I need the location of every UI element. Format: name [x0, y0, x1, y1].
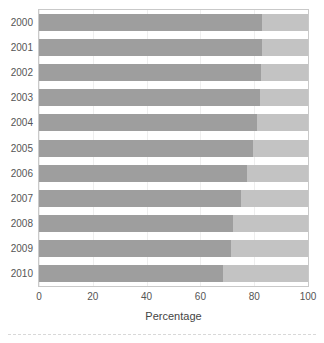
bar-row: [39, 64, 308, 81]
bar-segment-primary-2010: [39, 265, 223, 282]
y-axis-label-2008: 2008: [0, 218, 33, 229]
bar-row: [39, 265, 308, 282]
bar-segment-primary-2001: [39, 39, 262, 56]
bar-segment-secondary-2008: [233, 215, 308, 232]
bar-segment-primary-2003: [39, 89, 260, 106]
y-axis-label-2004: 2004: [0, 117, 33, 128]
y-axis-label-2003: 2003: [0, 92, 33, 103]
bar-segment-secondary-2009: [231, 240, 308, 257]
plot-area: [38, 9, 309, 287]
bar-row: [39, 114, 308, 131]
bar-segment-primary-2006: [39, 165, 247, 182]
bar-segment-secondary-2000: [262, 14, 308, 31]
bar-segment-primary-2007: [39, 190, 241, 207]
bar-segment-secondary-2002: [261, 64, 308, 81]
bar-row: [39, 39, 308, 56]
bar-segment-primary-2008: [39, 215, 233, 232]
bar-segment-secondary-2001: [262, 39, 308, 56]
bar-segment-primary-2000: [39, 14, 262, 31]
bar-row: [39, 165, 308, 182]
x-axis-tick-label-20: 20: [87, 291, 98, 302]
y-axis-label-2007: 2007: [0, 193, 33, 204]
x-axis-tick-label-60: 60: [195, 291, 206, 302]
bar-segment-secondary-2003: [260, 89, 308, 106]
bar-row: [39, 190, 308, 207]
stacked-bar-chart: 2000200120022003200420052006200720082009…: [0, 0, 324, 343]
bar-segment-primary-2005: [39, 140, 253, 157]
bar-segment-primary-2004: [39, 114, 257, 131]
y-axis-labels: 2000200120022003200420052006200720082009…: [0, 9, 33, 287]
x-axis-title: Percentage: [38, 310, 309, 322]
y-axis-label-2006: 2006: [0, 168, 33, 179]
bar-segment-primary-2002: [39, 64, 261, 81]
bar-row: [39, 215, 308, 232]
bar-row: [39, 14, 308, 31]
footer-divider: [8, 334, 316, 336]
bar-row: [39, 89, 308, 106]
y-axis-label-2009: 2009: [0, 243, 33, 254]
bar-segment-secondary-2005: [253, 140, 308, 157]
x-axis-tick-label-40: 40: [141, 291, 152, 302]
y-axis-label-2001: 2001: [0, 42, 33, 53]
y-axis-label-2005: 2005: [0, 143, 33, 154]
bar-row: [39, 140, 308, 157]
bar-segment-secondary-2010: [223, 265, 308, 282]
bar-row: [39, 240, 308, 257]
y-axis-label-2010: 2010: [0, 268, 33, 279]
bar-segment-secondary-2004: [257, 114, 308, 131]
x-axis-tick-labels: 020406080100: [38, 291, 309, 305]
bar-segment-secondary-2007: [241, 190, 308, 207]
x-axis-tick-label-80: 80: [249, 291, 260, 302]
bars-group: [39, 10, 308, 286]
y-axis-label-2002: 2002: [0, 67, 33, 78]
bar-segment-primary-2009: [39, 240, 231, 257]
x-axis-tick-label-100: 100: [300, 291, 317, 302]
gridline-x-100: [308, 10, 309, 286]
bar-segment-secondary-2006: [247, 165, 308, 182]
x-axis-tick-label-0: 0: [36, 291, 42, 302]
y-axis-label-2000: 2000: [0, 17, 33, 28]
